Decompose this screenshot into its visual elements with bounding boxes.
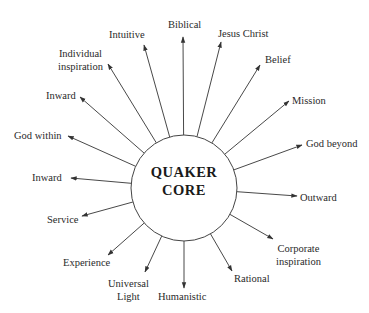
node-label-line: Corporate xyxy=(276,242,321,255)
arrow-god-within xyxy=(68,136,136,166)
node-label-line: Humanistic xyxy=(158,290,206,303)
node-label-line: Jesus Christ xyxy=(218,27,268,40)
node-label-line: Experience xyxy=(63,256,110,269)
node-label-experience: Experience xyxy=(63,256,110,269)
node-label-line: Outward xyxy=(300,191,337,204)
node-label-corporate-inspiration: Corporateinspiration xyxy=(276,242,321,268)
node-label-individual-inspiration: Individualinspiration xyxy=(58,47,103,73)
node-label-universal-light: UniversalLight xyxy=(108,277,149,303)
arrow-mission xyxy=(225,101,289,154)
arrow-service xyxy=(82,202,133,216)
node-label-mission: Mission xyxy=(292,94,326,107)
arrow-universal-light xyxy=(145,236,162,272)
node-label-line: Service xyxy=(47,213,79,226)
node-label-rational: Rational xyxy=(234,272,270,285)
node-label-line: Universal xyxy=(108,277,149,290)
arrow-experience xyxy=(108,223,144,255)
node-label-belief: Belief xyxy=(265,53,291,66)
node-label-line: Intuitive xyxy=(109,28,145,41)
node-label-line: Rational xyxy=(234,272,270,285)
node-label-line: Light xyxy=(108,290,149,303)
arrow-biblical xyxy=(183,37,184,135)
node-label-god-within: God within xyxy=(14,129,62,142)
node-label-god-beyond: God beyond xyxy=(306,137,358,150)
node-label-line: Inward xyxy=(32,171,62,184)
node-label-jesus-christ: Jesus Christ xyxy=(218,27,268,40)
node-label-humanistic: Humanistic xyxy=(158,290,206,303)
arrow-corporate-inspiration xyxy=(230,214,273,239)
arrow-intuitive xyxy=(144,45,170,137)
node-label-line: Belief xyxy=(265,53,291,66)
node-label-inward-lower: Inward xyxy=(32,171,62,184)
arrow-outward xyxy=(237,192,297,196)
node-label-line: Mission xyxy=(292,94,326,107)
arrow-inward-upper xyxy=(80,97,144,153)
node-label-service: Service xyxy=(47,213,79,226)
arrow-jesus-christ xyxy=(197,42,221,137)
node-label-biblical: Biblical xyxy=(168,18,201,31)
core-label-line-2: CORE xyxy=(134,181,234,199)
node-label-outward: Outward xyxy=(300,191,337,204)
node-label-line: Individual xyxy=(58,47,103,60)
node-label-line: Inward xyxy=(46,89,76,102)
arrow-rational xyxy=(211,234,233,271)
core-label: QUAKER CORE xyxy=(134,163,234,199)
node-label-intuitive: Intuitive xyxy=(109,28,145,41)
node-label-inward-upper: Inward xyxy=(46,89,76,102)
node-label-line: God beyond xyxy=(306,137,358,150)
arrow-individual-inspiration xyxy=(108,64,156,143)
node-label-line: inspiration xyxy=(58,60,103,73)
node-label-line: Biblical xyxy=(168,18,201,31)
arrow-god-beyond xyxy=(234,145,302,170)
node-label-line: inspiration xyxy=(276,255,321,268)
core-label-line-1: QUAKER xyxy=(134,163,234,181)
node-label-line: God within xyxy=(14,129,62,142)
arrow-inward-lower xyxy=(71,178,131,183)
